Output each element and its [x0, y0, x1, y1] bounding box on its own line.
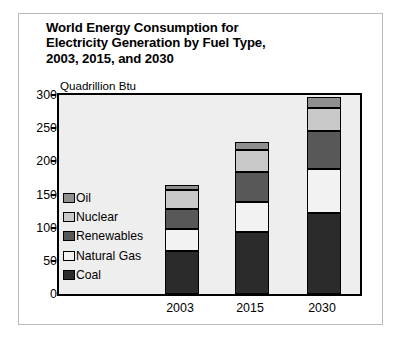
- bar-segment-2003-nuclear[interactable]: [165, 190, 199, 209]
- legend-swatch-renewables: [63, 231, 75, 241]
- bar-segment-2030-oil[interactable]: [307, 97, 341, 108]
- y-tick-mark: [51, 227, 56, 229]
- bar-segment-2030-coal[interactable]: [307, 213, 341, 294]
- bar-segment-2015-coal[interactable]: [235, 232, 269, 294]
- bar-segment-2015-nuclear[interactable]: [235, 150, 269, 172]
- legend-label: Coal: [76, 268, 101, 282]
- chart-figure: World Energy Consumption for Electricity…: [0, 0, 401, 348]
- y-tick-mark: [51, 194, 56, 196]
- legend-item-coal[interactable]: Coal: [63, 266, 168, 285]
- bar-segment-2030-renewables[interactable]: [307, 131, 341, 169]
- chart-title: World Energy Consumption for Electricity…: [46, 20, 366, 66]
- legend-label: Nuclear: [76, 210, 118, 224]
- x-tick-label-2015: 2015: [215, 301, 285, 315]
- legend-label: Natural Gas: [76, 249, 141, 263]
- legend-swatch-coal: [63, 270, 75, 280]
- legend-label: Oil: [76, 191, 91, 205]
- x-tick-label-2003: 2003: [145, 301, 215, 315]
- bar-segment-2030-natural-gas[interactable]: [307, 169, 341, 213]
- legend-item-natural-gas[interactable]: Natural Gas: [63, 246, 168, 265]
- y-tick-label: 0: [23, 287, 57, 301]
- bar-segment-2003-renewables[interactable]: [165, 209, 199, 229]
- y-tick-mark: [51, 260, 56, 262]
- y-axis-unit-label: Quadrillion Btu: [60, 79, 136, 92]
- legend-item-oil[interactable]: Oil: [63, 188, 168, 207]
- bar-2003[interactable]: [165, 95, 199, 294]
- legend-swatch-oil: [63, 193, 75, 203]
- legend-item-renewables[interactable]: Renewables: [63, 227, 168, 246]
- bar-segment-2003-oil[interactable]: [165, 185, 199, 190]
- bar-segment-2030-nuclear[interactable]: [307, 108, 341, 131]
- legend-swatch-nuclear: [63, 212, 75, 222]
- bar-2030[interactable]: [307, 95, 341, 294]
- bar-segment-2015-renewables[interactable]: [235, 172, 269, 203]
- chart-legend: OilNuclearRenewablesNatural GasCoal: [63, 188, 168, 285]
- legend-item-nuclear[interactable]: Nuclear: [63, 207, 168, 226]
- bar-segment-2003-natural-gas[interactable]: [165, 229, 199, 251]
- bar-segment-2015-oil[interactable]: [235, 142, 269, 150]
- chart-title-line-2: Electricity Generation by Fuel Type,: [46, 35, 366, 50]
- bar-segment-2015-natural-gas[interactable]: [235, 202, 269, 232]
- x-tick-label-2030: 2030: [287, 301, 357, 315]
- y-tick-mark: [51, 127, 56, 129]
- legend-label: Renewables: [76, 229, 143, 243]
- y-tick-mark: [51, 160, 56, 162]
- legend-swatch-natural-gas: [63, 251, 75, 261]
- chart-title-line-3: 2003, 2015, and 2030: [46, 51, 366, 66]
- y-axis: 050100150200250300: [0, 0, 57, 348]
- bar-segment-2003-coal[interactable]: [165, 251, 199, 294]
- chart-title-line-1: World Energy Consumption for: [46, 20, 366, 35]
- bar-2015[interactable]: [235, 95, 269, 294]
- y-tick-mark: [51, 94, 56, 96]
